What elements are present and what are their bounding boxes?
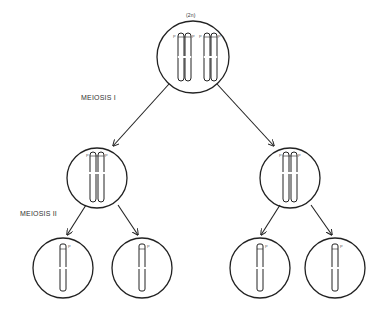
chromosome-pair-2: [203, 33, 218, 81]
meiosis1-right-cell: [260, 148, 320, 208]
p-marker: P: [68, 244, 71, 249]
meiosis2-cell-4: [305, 238, 365, 298]
ploidy-label: (2n): [186, 12, 196, 18]
chromosome-pair-1: [177, 33, 192, 81]
p-marker: P: [279, 153, 282, 158]
meiosis1-label: MEIOSIS I: [81, 94, 116, 101]
meiosis2-cell-1: [33, 238, 93, 298]
p-marker: P: [173, 34, 176, 39]
arrow-to-left: [113, 84, 169, 146]
p-marker: P: [298, 153, 301, 158]
meiosis2-cell-3: [230, 238, 290, 298]
meiosis2-label: MEIOSIS II: [20, 210, 57, 217]
p-marker: P: [340, 244, 343, 249]
parent-cell: [157, 21, 229, 93]
p-marker: P: [199, 34, 202, 39]
p-marker: P: [105, 153, 108, 158]
meiosis-diagram: [0, 0, 384, 326]
p-marker: P: [86, 153, 89, 158]
arrow-to-right: [217, 84, 274, 146]
p-marker: P: [192, 34, 195, 39]
p-marker: P: [265, 244, 268, 249]
meiosis1-left-cell: [67, 148, 127, 208]
meiosis2-cell-2: [112, 238, 172, 298]
p-marker: P: [218, 34, 221, 39]
p-marker: P: [147, 244, 150, 249]
